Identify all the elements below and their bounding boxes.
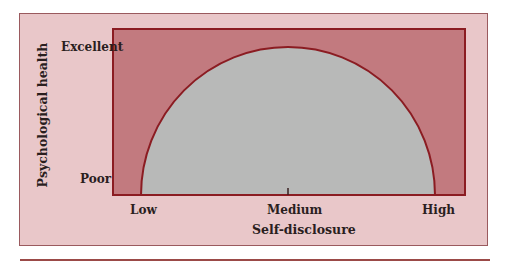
x-axis-title: Self-disclosure <box>252 222 356 237</box>
y-tick-excellent: Excellent <box>61 40 123 54</box>
x-tick-low: Low <box>130 203 157 217</box>
x-tick-medium: Medium <box>267 203 322 217</box>
x-tick-high: High <box>422 203 455 217</box>
y-tick-poor: Poor <box>80 172 111 186</box>
bottom-rule <box>20 259 490 261</box>
y-axis-title: Psychological health <box>35 43 50 188</box>
